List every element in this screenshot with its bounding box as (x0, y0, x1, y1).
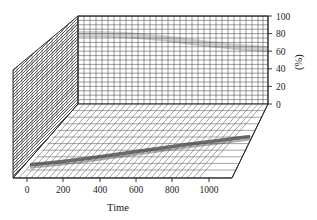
y-tick-label: 40 (276, 64, 286, 74)
x-axis-tick-labels: 0 200 400 600 800 1000 (25, 185, 219, 195)
x-tick-label: 1000 (200, 185, 219, 195)
y-axis-tick-labels: 100 80 60 40 20 0 (276, 12, 291, 110)
surface-plot-3d: 0 200 400 600 800 1000 Time 100 80 60 40… (0, 0, 317, 220)
y-tick-label: 20 (276, 82, 286, 92)
x-tick-label: 800 (165, 185, 180, 195)
x-tick-label: 0 (25, 185, 30, 195)
y-axis-ticks (268, 16, 272, 104)
x-axis-title: Time (107, 202, 129, 213)
y-axis-title: (%) (293, 54, 305, 70)
chart-container: 0 200 400 600 800 1000 Time 100 80 60 40… (0, 0, 317, 220)
back-wall (78, 16, 268, 104)
x-axis-ticks (27, 178, 209, 182)
y-tick-label: 100 (276, 12, 291, 22)
y-tick-label: 60 (276, 47, 286, 57)
y-tick-label: 80 (276, 29, 286, 39)
y-tick-label: 0 (276, 100, 281, 110)
x-tick-label: 600 (129, 185, 144, 195)
x-tick-label: 200 (56, 185, 71, 195)
x-tick-label: 400 (93, 185, 108, 195)
